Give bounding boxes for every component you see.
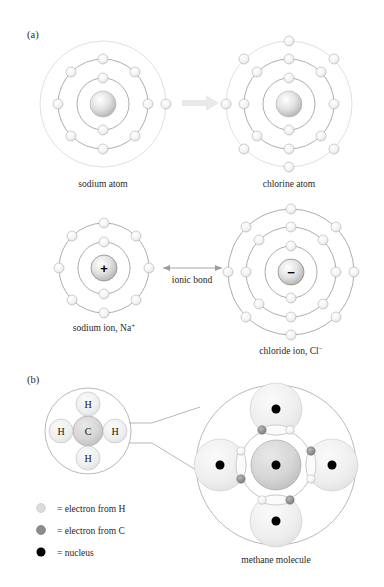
- legend-marker-electron-from-c: [37, 526, 46, 535]
- electron: [284, 162, 294, 172]
- ionic-and-covalent-bonding-figure: (a) sodium atom: [0, 0, 384, 587]
- electron: [318, 235, 328, 245]
- electron: [318, 299, 328, 309]
- electron: [241, 222, 251, 232]
- connector-line-bottom: [129, 443, 196, 470]
- electron: [286, 312, 296, 322]
- electron-transfer-arrow: [182, 95, 219, 111]
- electron: [254, 235, 264, 245]
- electron: [221, 99, 231, 109]
- electron: [331, 312, 341, 322]
- electron: [252, 67, 262, 77]
- hydrogen-nucleus-right: [328, 461, 337, 470]
- electron: [329, 144, 339, 154]
- hydrogen-atom-label-right: H: [111, 426, 118, 437]
- hydrogen-nucleus-top: [272, 405, 281, 414]
- valence-electron: [161, 99, 171, 109]
- sodium-ion-caption-text: sodium ion, Na: [73, 323, 132, 333]
- electron-from-h: [237, 447, 245, 455]
- electron: [329, 54, 339, 64]
- electron: [130, 131, 140, 141]
- electron: [54, 263, 64, 273]
- transferred-electron: [223, 267, 233, 277]
- hydrogen-nucleus-bottom: [272, 517, 281, 526]
- electron: [286, 222, 296, 232]
- electron: [284, 54, 294, 64]
- methane-molecule-diagram: methane molecule: [194, 383, 358, 565]
- electron: [286, 204, 296, 214]
- electron: [349, 267, 359, 277]
- electron: [67, 231, 77, 241]
- electron: [316, 67, 326, 77]
- legend-label-electron-from-h: = electron from H: [57, 504, 126, 514]
- electron: [254, 299, 264, 309]
- hydrogen-atom-label-bottom: H: [84, 453, 91, 464]
- electron: [143, 99, 153, 109]
- electron: [239, 144, 249, 154]
- electron: [131, 231, 141, 241]
- panel-a-label: (a): [27, 29, 39, 41]
- chlorine-atom-caption: chlorine atom: [263, 179, 316, 189]
- sodium-ion-caption: sodium ion, Na+: [73, 322, 135, 334]
- chloride-ion-caption-text: chloride ion, Cl: [259, 346, 319, 356]
- electron: [239, 99, 249, 109]
- sodium-atom-caption: sodium atom: [78, 179, 128, 189]
- electron: [67, 295, 77, 305]
- hydrogen-atom-label-left: H: [57, 426, 64, 437]
- chlorine-atom-diagram: chlorine atom: [221, 36, 352, 189]
- electron: [130, 67, 140, 77]
- electron: [252, 131, 262, 141]
- electron: [99, 289, 109, 299]
- electron: [331, 267, 341, 277]
- electron: [53, 99, 63, 109]
- electron-from-c: [286, 496, 294, 504]
- legend-marker-electron-from-h: [37, 504, 46, 513]
- sodium-atom-diagram: sodium atom: [40, 41, 171, 189]
- chloride-ion-charge-superscript: −: [319, 345, 323, 353]
- carbon-nucleus: [272, 461, 281, 470]
- electron-from-c: [258, 426, 266, 434]
- hydrogen-nucleus-left: [216, 461, 225, 470]
- electron: [241, 267, 251, 277]
- electron: [316, 131, 326, 141]
- methane-formula-diagram: C H H H H: [45, 388, 131, 474]
- electron: [241, 312, 251, 322]
- electron: [286, 293, 296, 303]
- electron: [284, 36, 294, 46]
- electron: [98, 144, 108, 154]
- electron-from-h: [307, 475, 315, 483]
- electron: [99, 218, 109, 228]
- positive-charge-sign: +: [100, 261, 108, 276]
- electron: [98, 54, 108, 64]
- electron-from-c: [237, 475, 245, 483]
- electron: [329, 99, 339, 109]
- legend: = electron from H = electron from C = nu…: [37, 504, 126, 559]
- sodium-ion-diagram: + sodium ion, Na+: [54, 218, 154, 333]
- chloride-ion-diagram: − chloride ion, Cl−: [223, 204, 359, 356]
- electron: [284, 125, 294, 135]
- chlorine-nucleus: [276, 91, 302, 117]
- electron: [99, 308, 109, 318]
- electron: [284, 73, 294, 83]
- electron: [98, 125, 108, 135]
- electron: [144, 263, 154, 273]
- arrowhead-right: [215, 265, 222, 271]
- carbon-atom-label: C: [85, 426, 92, 437]
- arrowhead-left: [163, 265, 170, 271]
- electron: [99, 237, 109, 247]
- methane-molecule-caption: methane molecule: [241, 555, 310, 565]
- electron: [286, 330, 296, 340]
- hydrogen-atom-label-top: H: [84, 399, 91, 410]
- ionic-bond-label: ionic bond: [172, 275, 213, 285]
- electron-from-c: [307, 447, 315, 455]
- electron: [98, 73, 108, 83]
- electron: [286, 241, 296, 251]
- sodium-nucleus: [90, 91, 116, 117]
- electron: [131, 295, 141, 305]
- chloride-ion-caption: chloride ion, Cl−: [259, 345, 322, 357]
- legend-label-electron-from-c: = electron from C: [57, 526, 125, 536]
- legend-marker-nucleus: [37, 548, 46, 557]
- sodium-ion-charge-superscript: +: [131, 322, 135, 330]
- electron: [239, 54, 249, 64]
- ionic-bond-annotation: ionic bond: [163, 265, 222, 285]
